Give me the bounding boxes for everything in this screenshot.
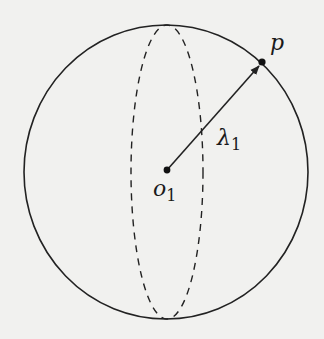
label-o1: o1 bbox=[153, 176, 176, 205]
diagram-canvas: p λ1 o1 bbox=[0, 0, 324, 339]
label-lambda1: λ1 bbox=[216, 125, 241, 154]
center-point-dot bbox=[164, 167, 171, 174]
surface-point-dot bbox=[258, 58, 265, 65]
radius-arrow bbox=[167, 66, 259, 170]
label-p: p bbox=[270, 30, 284, 55]
sphere-diagram: p λ1 o1 bbox=[0, 0, 324, 339]
